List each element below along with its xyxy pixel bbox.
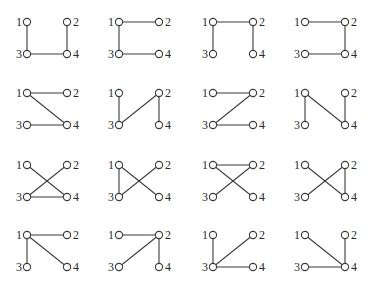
node-label-1: 1 [108, 86, 114, 100]
node-label-4: 4 [165, 118, 171, 132]
node-4 [63, 263, 70, 270]
node-label-1: 1 [16, 158, 22, 172]
tree-graph: 1234 [16, 15, 79, 61]
node-label-3: 3 [16, 260, 22, 274]
node-label-3: 3 [108, 260, 114, 274]
node-4 [155, 50, 162, 57]
node-label-1: 1 [294, 15, 300, 29]
node-3 [209, 193, 216, 200]
node-label-2: 2 [351, 86, 357, 100]
node-1 [115, 161, 122, 168]
node-4 [155, 193, 162, 200]
node-label-1: 1 [202, 158, 208, 172]
tree-graph: 1234 [202, 158, 265, 204]
edge-2-3 [213, 235, 253, 267]
node-3 [115, 263, 122, 270]
node-2 [155, 231, 162, 238]
node-label-2: 2 [259, 228, 265, 242]
node-3 [301, 263, 308, 270]
node-3 [115, 50, 122, 57]
node-1 [23, 89, 30, 96]
tree-graph: 1234 [108, 158, 171, 204]
node-1 [301, 161, 308, 168]
node-3 [209, 121, 216, 128]
node-label-3: 3 [16, 47, 22, 61]
tree-graph: 1234 [202, 228, 265, 274]
node-2 [63, 231, 70, 238]
node-label-1: 1 [16, 86, 22, 100]
node-label-2: 2 [259, 15, 265, 29]
node-4 [341, 121, 348, 128]
node-label-2: 2 [351, 228, 357, 242]
node-1 [115, 89, 122, 96]
node-1 [209, 18, 216, 25]
tree-graph: 1234 [16, 228, 79, 274]
node-label-2: 2 [73, 15, 79, 29]
node-label-2: 2 [165, 15, 171, 29]
node-4 [63, 50, 70, 57]
node-3 [23, 193, 30, 200]
tree-graph: 1234 [202, 15, 265, 61]
node-2 [155, 161, 162, 168]
node-label-1: 1 [108, 15, 114, 29]
node-4 [341, 263, 348, 270]
edge-2-3 [119, 235, 159, 267]
node-2 [249, 89, 256, 96]
node-2 [63, 89, 70, 96]
node-label-1: 1 [108, 158, 114, 172]
node-label-4: 4 [165, 260, 171, 274]
node-label-4: 4 [351, 190, 357, 204]
node-label-1: 1 [294, 158, 300, 172]
node-2 [341, 161, 348, 168]
edge-1-4 [27, 93, 67, 125]
node-3 [209, 50, 216, 57]
tree-graph: 1234 [294, 158, 357, 204]
node-1 [23, 161, 30, 168]
edge-1-4 [305, 93, 345, 125]
node-label-1: 1 [202, 86, 208, 100]
node-2 [249, 231, 256, 238]
node-label-3: 3 [202, 260, 208, 274]
node-label-2: 2 [259, 158, 265, 172]
node-4 [341, 50, 348, 57]
tree-graph: 1234 [108, 228, 171, 274]
node-3 [23, 50, 30, 57]
node-label-4: 4 [165, 47, 171, 61]
node-label-4: 4 [73, 47, 79, 61]
node-label-1: 1 [294, 86, 300, 100]
node-1 [301, 231, 308, 238]
node-label-4: 4 [73, 260, 79, 274]
node-1 [301, 18, 308, 25]
tree-graph: 1234 [16, 86, 79, 132]
node-label-4: 4 [165, 190, 171, 204]
node-label-4: 4 [73, 190, 79, 204]
node-3 [115, 121, 122, 128]
node-1 [23, 18, 30, 25]
node-2 [63, 161, 70, 168]
node-label-2: 2 [351, 15, 357, 29]
node-label-2: 2 [351, 158, 357, 172]
node-label-3: 3 [294, 47, 300, 61]
node-label-1: 1 [16, 15, 22, 29]
node-label-3: 3 [16, 118, 22, 132]
node-label-3: 3 [108, 190, 114, 204]
tree-graph: 1234 [294, 228, 357, 274]
node-label-4: 4 [351, 47, 357, 61]
node-label-3: 3 [294, 190, 300, 204]
node-1 [301, 89, 308, 96]
node-label-2: 2 [165, 86, 171, 100]
node-2 [155, 89, 162, 96]
spanning-trees-diagram: 1234123412341234123412341234123412341234… [0, 0, 373, 285]
node-3 [23, 121, 30, 128]
node-label-3: 3 [294, 260, 300, 274]
node-1 [115, 18, 122, 25]
node-1 [209, 231, 216, 238]
tree-graph: 1234 [294, 15, 357, 61]
node-label-3: 3 [202, 118, 208, 132]
node-4 [63, 193, 70, 200]
node-1 [115, 231, 122, 238]
edge-2-3 [119, 93, 159, 125]
node-2 [249, 161, 256, 168]
node-label-3: 3 [16, 190, 22, 204]
node-label-2: 2 [165, 158, 171, 172]
